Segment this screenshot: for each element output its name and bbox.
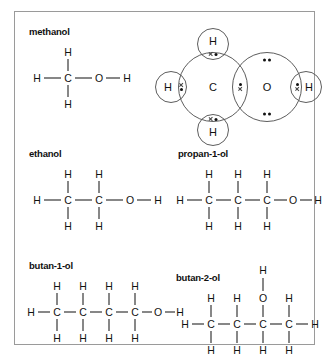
- electron-dot: [180, 88, 183, 91]
- bond: [274, 200, 287, 201]
- atom-h-top: H: [285, 293, 293, 304]
- atom-c: C: [234, 195, 242, 206]
- molecule-ethanol: ethanol H C C O H H H H H: [23, 148, 173, 240]
- atom-o-hydroxyl: O: [259, 293, 267, 304]
- bond: [237, 305, 238, 317]
- electron-dot: [263, 113, 266, 116]
- atom-o: O: [126, 195, 134, 206]
- atom-h-top: H: [64, 169, 72, 180]
- bond: [116, 312, 128, 313]
- atom-h-top: H: [131, 281, 139, 292]
- bond: [83, 319, 84, 331]
- atom-c: C: [233, 319, 241, 330]
- bonding-pair-c-h-left: [179, 83, 183, 91]
- bond: [109, 293, 110, 305]
- bond: [211, 305, 212, 317]
- bond: [142, 312, 152, 313]
- bond: [209, 181, 210, 193]
- atom-h-top: H: [207, 293, 215, 304]
- atom-h-bottom: H: [259, 345, 267, 356]
- atom-h-bottom: H: [53, 333, 61, 344]
- atom-h: H: [311, 319, 319, 330]
- structural-formula-butan-1-ol: H C C C C O H H H H H H H H H: [23, 260, 183, 345]
- atom-h-top: H: [233, 293, 241, 304]
- carbon-label: C: [209, 82, 217, 93]
- molecule-methanol: methanol H C O H H H: [23, 26, 143, 116]
- bond: [209, 207, 210, 219]
- hydrogen-label-top: H: [209, 36, 217, 47]
- oxygen-label: O: [263, 82, 272, 93]
- bond: [270, 324, 282, 325]
- bond: [263, 331, 264, 343]
- dot-cross-diagram-methanol: C O H H H H: [151, 26, 311, 150]
- bonding-pair-c-h-top: [209, 52, 218, 56]
- electron-dot: [215, 118, 218, 121]
- oxygen-lone-pair-top: [263, 59, 271, 62]
- atom-o: O: [95, 73, 103, 84]
- atom-c: C: [259, 319, 267, 330]
- bond: [289, 305, 290, 317]
- hydrogen-label-right: H: [305, 82, 313, 93]
- atom-h: H: [181, 319, 189, 330]
- bond: [263, 305, 264, 317]
- hydrogen-label-bottom: H: [209, 127, 217, 138]
- bond: [135, 293, 136, 305]
- atom-h: H: [33, 73, 41, 84]
- electron-cross: [209, 52, 213, 56]
- bond: [211, 331, 212, 343]
- atom-h-top: H: [53, 281, 61, 292]
- atom-h-top: H: [79, 281, 87, 292]
- atom-h: H: [314, 195, 322, 206]
- atom-h: H: [154, 195, 162, 206]
- electron-dot: [239, 83, 242, 86]
- atom-h-bottom: H: [105, 333, 113, 344]
- atom-c: C: [79, 307, 87, 318]
- bond: [44, 200, 61, 201]
- molecule-propan-1-ol: propan-1-ol H C C C O H H H H H H H: [172, 148, 322, 240]
- bond: [218, 324, 230, 325]
- bond: [135, 319, 136, 331]
- bond: [263, 278, 264, 291]
- oxygen-lone-pair-bottom: [263, 113, 271, 116]
- bond: [68, 59, 69, 71]
- electron-cross: [209, 117, 213, 121]
- bond: [137, 200, 151, 201]
- electron-dot: [268, 113, 271, 116]
- bond: [68, 85, 69, 97]
- bond: [267, 207, 268, 219]
- bond: [106, 78, 120, 79]
- structural-formula-methanol: H C O H H H: [23, 26, 143, 106]
- bond: [244, 324, 256, 325]
- bond: [187, 200, 202, 201]
- bond: [192, 324, 204, 325]
- bond: [75, 200, 92, 201]
- atom-h-bottom: H: [263, 221, 271, 232]
- atom-h-hydroxyl: H: [259, 265, 267, 276]
- atom-o: O: [289, 195, 297, 206]
- bond: [68, 181, 69, 193]
- atom-h-bottom: H: [233, 345, 241, 356]
- bond: [109, 319, 110, 331]
- bond: [245, 200, 260, 201]
- atom-h-top: H: [205, 169, 213, 180]
- atom-h-bottom: H: [95, 221, 103, 232]
- atom-h-bottom: H: [285, 345, 293, 356]
- bond: [267, 181, 268, 193]
- atom-c: C: [263, 195, 271, 206]
- hydrogen-label-left: H: [164, 82, 172, 93]
- electron-dot: [263, 59, 266, 62]
- atom-h-bottom: H: [205, 221, 213, 232]
- bond: [44, 78, 61, 79]
- bond: [75, 78, 92, 79]
- bond: [83, 293, 84, 305]
- structural-formula-propan-1-ol: H C C C O H H H H H H H: [172, 148, 322, 233]
- bond: [216, 200, 231, 201]
- atom-c: C: [207, 319, 215, 330]
- atom-c: C: [285, 319, 293, 330]
- atom-c: C: [53, 307, 61, 318]
- atom-h-bottom: H: [131, 333, 139, 344]
- molecule-butan-2-ol: butan-2-ol H H C C C C H H H O H H H H H: [170, 260, 320, 352]
- atom-h-bottom: H: [79, 333, 87, 344]
- molecule-butan-1-ol: butan-1-ol H C C C C O H H H H H H H H H: [23, 260, 183, 352]
- bond: [64, 312, 76, 313]
